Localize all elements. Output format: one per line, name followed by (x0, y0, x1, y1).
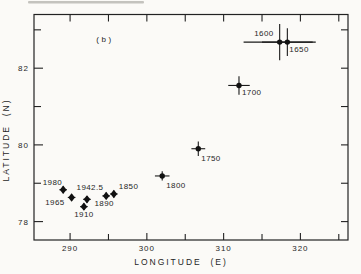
x-tick-label-310: 310 (215, 244, 231, 253)
panel-label: (b) (96, 35, 113, 44)
point-year-label: 1980 (43, 178, 63, 187)
point-year-label: 1850 (119, 182, 139, 191)
data-point-1800: 1800 (155, 171, 186, 190)
x-tick-label-300: 300 (139, 244, 155, 253)
point-year-label: 1890 (94, 199, 114, 208)
x-tick-label-320: 320 (292, 244, 308, 253)
point-year-label: 1600 (254, 29, 274, 38)
y-tick-label-82: 82 (18, 64, 29, 73)
marker-circle (236, 83, 241, 88)
figure-page: 290300310320788082 160016501700175018001… (0, 0, 361, 274)
x-tick-label-290: 290 (62, 244, 78, 253)
marker-circle (196, 146, 201, 151)
point-year-label: 1965 (45, 198, 65, 207)
y-tick-label-78: 78 (18, 218, 29, 227)
marker-circle (285, 39, 290, 44)
data-point-1980: 1980 (43, 178, 67, 194)
marker-diamond (68, 193, 75, 201)
data-point-1700: 1700 (228, 76, 261, 97)
point-year-label: 1910 (74, 210, 94, 219)
point-year-label: 1650 (289, 45, 309, 54)
y-axis-title: LATITUDE (N) (1, 99, 11, 182)
point-year-label: 1800 (166, 181, 186, 190)
marker-diamond (60, 186, 67, 194)
point-year-label: 1750 (201, 154, 221, 163)
data-point-1965: 1965 (45, 193, 75, 207)
data-point-1910: 1910 (74, 202, 94, 218)
data-point-1750: 1750 (191, 141, 220, 162)
point-year-label: 1942.5 (77, 183, 104, 192)
data-points: 160016501700175018001850189019101942.519… (43, 24, 316, 219)
marker-circle (160, 173, 165, 178)
scan-artifact-bar (28, 1, 144, 4)
scatter-plot-panel-b: 290300310320788082 160016501700175018001… (0, 0, 361, 274)
axis-tick-labels: 290300310320788082 (18, 64, 308, 253)
y-tick-label-80: 80 (18, 141, 29, 150)
data-point-1850: 1850 (110, 182, 138, 198)
marker-diamond (110, 190, 117, 198)
x-axis-title: LONGITUDE (E) (134, 257, 228, 267)
point-year-label: 1700 (242, 88, 262, 97)
marker-diamond (84, 195, 91, 203)
